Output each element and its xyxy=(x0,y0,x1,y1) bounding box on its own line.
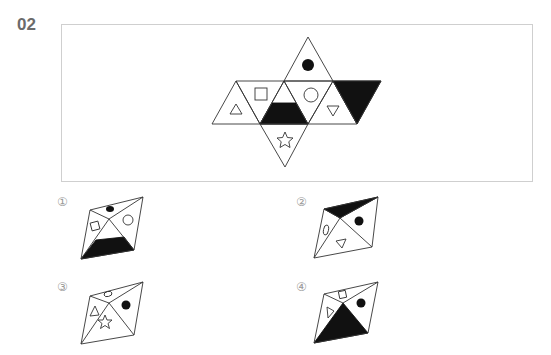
inverted-triangle-icon xyxy=(327,106,339,116)
option-1-label[interactable]: ① xyxy=(57,195,68,209)
triangle-icon xyxy=(230,104,242,114)
square-icon xyxy=(90,221,100,231)
octahedron-net xyxy=(212,37,381,167)
option-2-label[interactable]: ② xyxy=(296,195,307,209)
option-3-figure[interactable] xyxy=(81,282,143,344)
filled-circle-icon xyxy=(302,59,314,71)
option-2-figure[interactable] xyxy=(314,197,378,258)
option-4-label[interactable]: ④ xyxy=(296,280,307,294)
figure-canvas xyxy=(0,0,551,355)
circle-icon xyxy=(304,88,318,102)
star-icon xyxy=(98,315,112,329)
ellipse-icon xyxy=(103,291,112,298)
filled-ellipse-icon xyxy=(106,206,114,212)
star-icon xyxy=(277,132,293,148)
inverted-triangle-icon xyxy=(336,239,346,248)
net-face-filled xyxy=(333,81,381,124)
filled-circle-icon xyxy=(355,217,364,226)
square-icon xyxy=(255,88,267,100)
net-face-top xyxy=(284,37,333,81)
net-face-trapezoid-icon xyxy=(260,103,308,124)
circle-icon xyxy=(123,215,133,225)
option-4-figure[interactable] xyxy=(314,282,378,343)
filled-circle-icon xyxy=(357,299,366,308)
ellipse-icon xyxy=(323,225,330,236)
filled-circle-icon xyxy=(122,301,131,310)
triangle-icon xyxy=(90,306,99,316)
option-1-figure[interactable] xyxy=(81,197,143,259)
net-face-1 xyxy=(212,81,260,124)
option-3-label[interactable]: ③ xyxy=(57,280,68,294)
square-icon xyxy=(338,290,346,298)
option-4-bottom-filled xyxy=(314,303,368,343)
